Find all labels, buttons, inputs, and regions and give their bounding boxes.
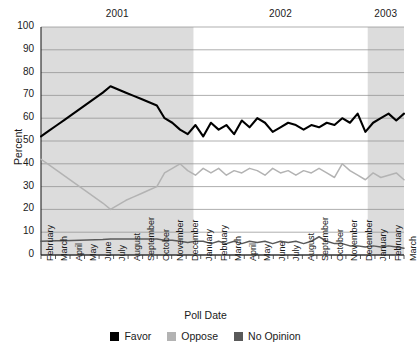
- year-label-2003: 2003: [368, 8, 404, 19]
- x-tick-label-2: April: [74, 243, 84, 261]
- x-tick-label-16: June: [277, 241, 287, 261]
- x-tick-label-0: February: [45, 225, 55, 261]
- y-tick-label-70: 70: [8, 88, 34, 99]
- legend-item-no-opinion[interactable]: No Opinion: [234, 330, 301, 342]
- x-tick-label-17: July: [291, 245, 301, 261]
- legend-label: Favor: [124, 330, 151, 342]
- x-tick-label-7: September: [146, 217, 156, 261]
- x-tick-label-13: March: [233, 236, 243, 261]
- x-tick-label-19: September: [320, 217, 330, 261]
- y-tick-label-30: 30: [8, 180, 34, 191]
- x-tick-label-15: May: [262, 244, 272, 261]
- x-tick-label-24: February: [393, 225, 403, 261]
- x-tick-label-5: July: [117, 245, 127, 261]
- chart-legend: FavorOpposeNo Opinion: [0, 330, 411, 342]
- x-tick-label-18: August: [306, 233, 316, 261]
- x-tick-label-20: October: [335, 229, 345, 261]
- y-tick-label-100: 100: [8, 20, 34, 31]
- legend-swatch-icon: [110, 332, 119, 341]
- x-tick-label-1: March: [59, 236, 69, 261]
- legend-label: No Opinion: [248, 330, 301, 342]
- x-tick-label-12: February: [219, 225, 229, 261]
- legend-item-favor[interactable]: Favor: [110, 330, 151, 342]
- x-tick-label-14: April: [248, 243, 258, 261]
- x-tick-label-11: January: [204, 229, 214, 261]
- legend-item-oppose[interactable]: Oppose: [167, 330, 218, 342]
- y-tick-label-90: 90: [8, 43, 34, 54]
- x-tick-label-25: March: [408, 236, 418, 261]
- y-tick-label-20: 20: [8, 202, 34, 213]
- year-label-2001: 2001: [41, 8, 193, 19]
- legend-label: Oppose: [181, 330, 218, 342]
- y-tick-label-60: 60: [8, 111, 34, 122]
- x-tick-label-6: August: [132, 233, 142, 261]
- y-tick-label-80: 80: [8, 66, 34, 77]
- x-tick-label-21: November: [349, 219, 359, 261]
- x-tick-label-4: June: [103, 241, 113, 261]
- y-tick-label-0: 0: [8, 248, 34, 259]
- x-axis-title: Poll Date: [0, 309, 411, 321]
- x-tick-label-22: December: [364, 219, 374, 261]
- legend-swatch-icon: [234, 332, 243, 341]
- x-tick-label-23: January: [378, 229, 388, 261]
- x-tick-label-10: December: [190, 219, 200, 261]
- x-tick-label-9: November: [175, 219, 185, 261]
- year-label-2002: 2002: [193, 8, 367, 19]
- x-tick-label-8: October: [161, 229, 171, 261]
- y-axis-title: Percent: [12, 129, 24, 165]
- y-tick-label-10: 10: [8, 225, 34, 236]
- x-tick-label-3: May: [88, 244, 98, 261]
- legend-swatch-icon: [167, 332, 176, 341]
